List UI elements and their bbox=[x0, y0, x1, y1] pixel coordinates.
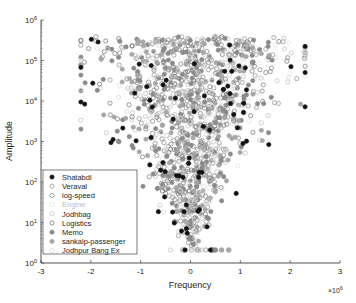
data-point bbox=[242, 101, 246, 105]
legend-item-label: Veraval bbox=[62, 182, 87, 191]
data-point bbox=[95, 88, 99, 92]
data-point bbox=[259, 52, 263, 56]
data-point bbox=[226, 248, 230, 252]
data-point bbox=[251, 46, 255, 50]
data-point bbox=[223, 57, 227, 61]
data-point bbox=[191, 136, 195, 140]
data-point bbox=[161, 98, 165, 102]
data-point bbox=[192, 168, 196, 172]
data-point bbox=[189, 98, 193, 102]
data-point bbox=[202, 94, 206, 98]
data-point bbox=[212, 180, 216, 184]
data-point bbox=[237, 64, 241, 68]
x-tick-label: -2 bbox=[87, 267, 95, 276]
data-point bbox=[171, 117, 175, 121]
data-point bbox=[131, 125, 135, 129]
data-point bbox=[192, 49, 196, 53]
data-point bbox=[183, 219, 187, 223]
data-point bbox=[153, 81, 157, 85]
data-point bbox=[137, 62, 141, 66]
data-point bbox=[163, 65, 167, 69]
data-point bbox=[194, 180, 198, 184]
data-point bbox=[116, 95, 120, 99]
x-axis-ticks: -3-2-10123 bbox=[37, 260, 342, 276]
data-point bbox=[175, 210, 179, 214]
data-point bbox=[212, 184, 216, 188]
legend-item-label: Memo bbox=[62, 228, 83, 237]
data-point bbox=[137, 127, 141, 131]
data-point bbox=[289, 51, 293, 55]
data-point bbox=[176, 186, 180, 190]
y-tick-label: 103 bbox=[25, 137, 37, 147]
data-point bbox=[154, 149, 158, 153]
data-point bbox=[258, 47, 262, 51]
data-point bbox=[226, 84, 230, 88]
data-point bbox=[160, 123, 164, 127]
data-point bbox=[275, 79, 279, 83]
data-point bbox=[173, 96, 177, 100]
data-point bbox=[203, 208, 207, 212]
legend-marker-icon bbox=[50, 175, 54, 179]
data-point bbox=[130, 52, 134, 56]
data-point bbox=[235, 126, 239, 130]
data-point bbox=[133, 91, 137, 95]
data-point bbox=[136, 106, 140, 110]
data-point bbox=[238, 150, 242, 154]
data-point bbox=[218, 153, 222, 157]
data-point bbox=[102, 113, 106, 117]
data-point bbox=[161, 161, 165, 165]
data-point bbox=[140, 155, 144, 159]
data-point bbox=[266, 44, 270, 48]
data-point bbox=[161, 83, 165, 87]
data-point bbox=[197, 175, 201, 179]
legend-item-label: Jodhbag bbox=[62, 210, 91, 219]
data-point bbox=[163, 195, 167, 199]
data-point bbox=[266, 40, 270, 44]
data-point bbox=[115, 129, 119, 133]
data-point bbox=[140, 48, 144, 52]
data-point bbox=[99, 57, 103, 61]
data-point bbox=[266, 131, 270, 135]
data-point bbox=[223, 69, 227, 73]
data-point bbox=[236, 164, 240, 168]
data-point bbox=[186, 133, 190, 137]
y-tick-label: 105 bbox=[25, 56, 37, 66]
data-point bbox=[117, 84, 121, 88]
data-point bbox=[303, 44, 307, 48]
data-point bbox=[246, 104, 250, 108]
data-point bbox=[234, 191, 238, 195]
data-point bbox=[137, 150, 141, 154]
data-point bbox=[216, 174, 220, 178]
data-point bbox=[184, 75, 188, 79]
data-point bbox=[203, 100, 207, 104]
data-point bbox=[189, 143, 193, 147]
data-point bbox=[79, 118, 83, 122]
data-point bbox=[148, 163, 152, 167]
data-point bbox=[168, 96, 172, 100]
data-point bbox=[188, 38, 192, 42]
data-point bbox=[267, 53, 271, 57]
data-point bbox=[240, 80, 244, 84]
data-point bbox=[141, 44, 145, 48]
data-point bbox=[251, 130, 255, 134]
data-point bbox=[166, 51, 170, 55]
legend-item-label: Shatabdi bbox=[62, 173, 92, 182]
data-point bbox=[176, 234, 180, 238]
data-point bbox=[209, 65, 213, 69]
data-point bbox=[164, 78, 168, 82]
data-point bbox=[206, 38, 210, 42]
y-tick-label: 100 bbox=[25, 258, 37, 268]
data-point bbox=[176, 121, 180, 125]
data-point bbox=[192, 62, 196, 66]
data-point bbox=[270, 58, 274, 62]
data-point bbox=[136, 78, 140, 82]
data-point bbox=[177, 174, 181, 178]
data-point bbox=[274, 56, 278, 60]
data-point bbox=[124, 116, 128, 120]
data-point bbox=[168, 66, 172, 70]
data-point bbox=[192, 189, 196, 193]
data-point bbox=[224, 111, 228, 115]
data-point bbox=[91, 81, 95, 85]
data-point bbox=[79, 65, 83, 69]
data-point bbox=[144, 125, 148, 129]
